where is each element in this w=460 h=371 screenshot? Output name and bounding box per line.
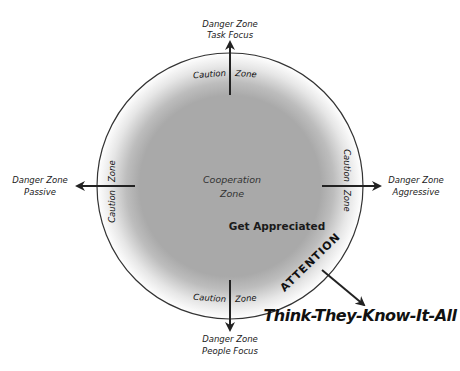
danger-top-line1: Danger Zone	[202, 19, 258, 29]
danger-right-line1: Danger Zone	[388, 175, 444, 185]
cooperation-line1: Cooperation	[203, 174, 261, 185]
think-they-know-it-all-label: Think-They-Know-It-All	[263, 306, 457, 325]
danger-right-line2: Aggressive	[392, 187, 440, 197]
danger-top-line2: Task Focus	[207, 30, 254, 40]
danger-left-line2: Passive	[24, 187, 56, 197]
cooperation-line2: Zone	[219, 188, 244, 199]
caution-bottom-word2: Zone	[234, 293, 257, 305]
arrow-attention	[322, 270, 364, 305]
caution-top-word2: Zone	[234, 68, 257, 80]
caution-right-word2: Zone	[342, 189, 352, 212]
caution-left-word1: Caution	[107, 190, 117, 223]
get-appreciated-label: Get Appreciated	[229, 220, 325, 232]
communication-zones-diagram: Danger Zone Task Focus Danger Zone Passi…	[0, 0, 460, 371]
danger-bottom-line1: Danger Zone	[202, 334, 258, 344]
caution-left-word2: Zone	[107, 160, 117, 183]
caution-right-word1: Caution	[342, 149, 352, 182]
danger-left-line1: Danger Zone	[12, 175, 68, 185]
danger-bottom-line2: People Focus	[202, 346, 258, 356]
